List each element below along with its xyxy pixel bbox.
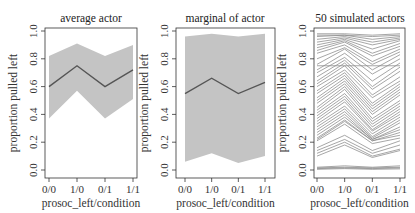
x-tick-label: 1/0 [205, 183, 220, 195]
panel-title: 50 simulated actors [315, 12, 405, 24]
y-tick-label: 1.0 [158, 24, 170, 38]
x-tick-label: 1/1 [126, 183, 140, 195]
simulated-actor-line [317, 169, 400, 170]
x-tick-label: 0/1 [98, 183, 112, 195]
x-tick-label: 0/1 [365, 183, 379, 195]
x-tick-label: 0/0 [310, 183, 325, 195]
x-tick-label: 1/1 [258, 183, 272, 195]
y-axis-label: proportion pulled left [7, 53, 20, 152]
chart-figure: 0.00.20.40.60.81.00/01/00/11/1average ac… [0, 0, 415, 213]
x-axis-label: prosoc_left/condition [42, 197, 141, 210]
x-tick-label: 0/0 [42, 183, 57, 195]
interval-band [185, 34, 265, 163]
y-tick-label: 0.0 [296, 163, 308, 177]
y-tick-label: 0.2 [158, 135, 170, 149]
y-tick-label: 0.0 [27, 163, 39, 177]
y-tick-label: 0.8 [27, 51, 39, 65]
y-tick-label: 0.4 [296, 107, 308, 121]
y-tick-label: 0.6 [27, 79, 39, 93]
plot-frame [314, 28, 405, 178]
y-tick-label: 0.0 [158, 163, 170, 177]
y-tick-label: 1.0 [27, 24, 39, 38]
panel-2: 0.00.20.40.60.81.00/01/00/11/1marginal o… [138, 12, 275, 210]
y-axis-label: proportion pulled left [138, 53, 151, 152]
y-tick-label: 0.8 [296, 51, 308, 65]
y-tick-label: 0.2 [296, 135, 308, 149]
panel-title: marginal of actor [186, 12, 265, 25]
y-tick-label: 0.6 [158, 79, 170, 93]
simulated-actor-line [317, 168, 400, 169]
y-tick-label: 0.6 [296, 79, 308, 93]
interval-band [49, 44, 133, 119]
x-tick-label: 1/0 [70, 183, 85, 195]
panel-title: average actor [60, 12, 122, 25]
y-tick-label: 0.2 [27, 135, 39, 149]
y-tick-label: 0.8 [158, 51, 170, 65]
x-tick-label: 1/1 [393, 183, 407, 195]
x-axis-label: prosoc_left/condition [310, 197, 409, 210]
y-tick-label: 1.0 [296, 24, 308, 38]
y-axis-label: proportion pulled left [276, 53, 289, 152]
simulated-actor-line [317, 49, 400, 70]
x-tick-label: 0/1 [231, 183, 245, 195]
y-tick-label: 0.4 [27, 107, 39, 121]
x-tick-label: 1/0 [338, 183, 353, 195]
y-tick-label: 0.4 [158, 107, 170, 121]
panel-3: 0.00.20.40.60.81.00/01/00/11/150 simulat… [276, 12, 409, 210]
panel-1: 0.00.20.40.60.81.00/01/00/11/1average ac… [7, 12, 140, 210]
simulated-actor-line [317, 166, 400, 167]
x-axis-label: prosoc_left/condition [176, 197, 275, 210]
x-tick-label: 0/0 [178, 183, 193, 195]
